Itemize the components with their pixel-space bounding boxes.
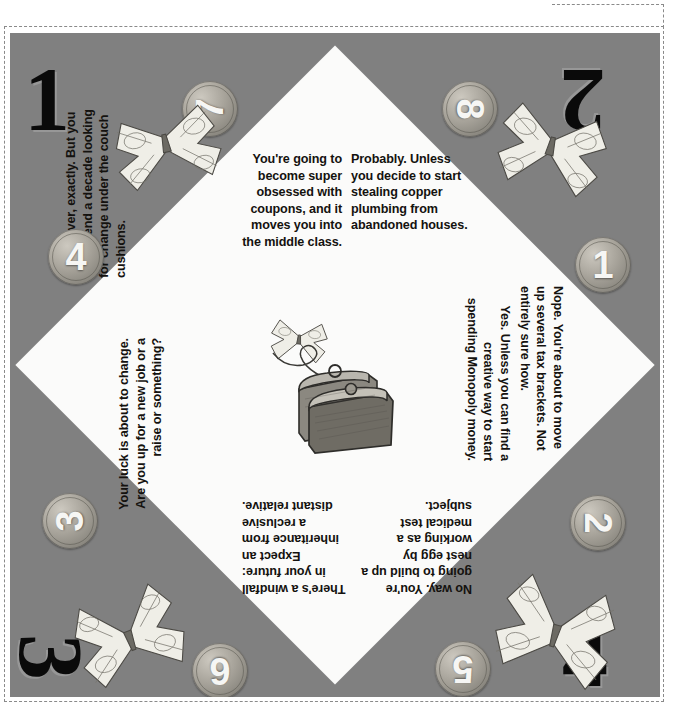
- fortune-bottom-right: No way. You're going to build up a nest …: [354, 497, 472, 597]
- coin-label-3: 3: [42, 493, 98, 549]
- coin-8: 8: [442, 81, 498, 137]
- coin-label-1: 1: [575, 237, 631, 293]
- coin-2: 2: [570, 495, 626, 551]
- coin-label-8: 8: [442, 81, 498, 137]
- coin-3: 3: [42, 493, 98, 549]
- gray-sheet: You're going to become super obsessed wi…: [10, 33, 660, 697]
- fortune-top-left: You're going to become super obsessed wi…: [238, 151, 342, 251]
- fortune-left-bottom: Your luck is about to change. Are you up…: [116, 338, 166, 513]
- coin-label-4: 4: [48, 229, 104, 285]
- coin-4: 4: [48, 229, 104, 285]
- fortune-bottom-left: There's a windfall in your future: Expec…: [242, 497, 346, 597]
- corner-numeral-1: 1: [24, 53, 70, 145]
- fortune-teller-page: You're going to become super obsessed wi…: [0, 0, 673, 711]
- fortune-right-top: Yes. Unless you can find a creative way …: [463, 286, 513, 461]
- dollar-bill-butterfly-icon: [475, 546, 637, 697]
- fortune-top-right: Probably. Unless you decide to start ste…: [351, 151, 469, 234]
- coin-label-2: 2: [570, 495, 626, 551]
- fortune-right-bottom: Nope. You're about to move up several ta…: [516, 286, 566, 461]
- coin-1: 1: [575, 237, 631, 293]
- dollar-bill-butterfly-icon: [97, 80, 237, 220]
- cut-guide-corner: [552, 4, 664, 28]
- coin-purse-icon: [265, 323, 415, 463]
